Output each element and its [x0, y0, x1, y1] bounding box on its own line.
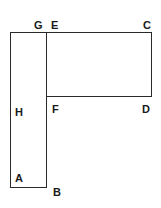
segment-left-edge: [10, 32, 11, 188]
label-b: B: [53, 187, 61, 198]
label-h: H: [15, 107, 23, 118]
segment-g-e-top: [10, 32, 47, 33]
segment-bottom-edge: [10, 187, 47, 188]
label-a: A: [15, 173, 23, 184]
segment-f-d: [46, 96, 152, 97]
label-g: G: [34, 20, 43, 31]
segment-e-b: [46, 32, 47, 188]
segment-c-d: [151, 32, 152, 97]
segment-e-c: [46, 32, 152, 33]
label-e: E: [51, 20, 58, 31]
label-f: F: [52, 104, 59, 115]
label-d: D: [142, 104, 150, 115]
label-c: C: [143, 20, 151, 31]
